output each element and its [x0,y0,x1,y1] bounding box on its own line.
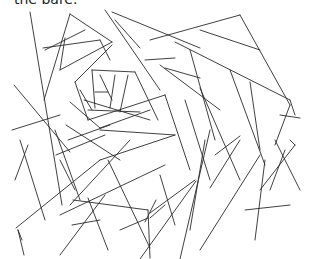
line-drawing-figure [0,0,312,259]
line-segments [12,10,300,259]
